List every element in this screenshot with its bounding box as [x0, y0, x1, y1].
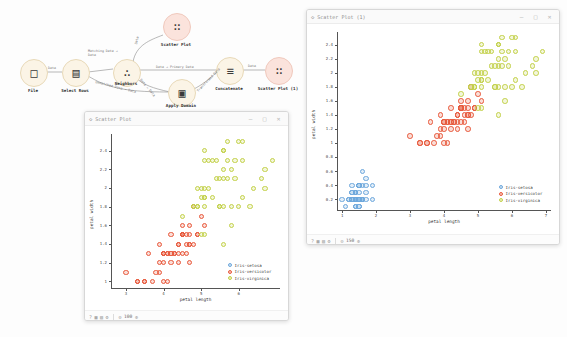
data-point[interactable] — [455, 126, 461, 132]
data-point[interactable] — [434, 133, 440, 139]
data-point[interactable] — [509, 84, 515, 90]
data-point[interactable] — [202, 204, 207, 209]
data-point[interactable] — [343, 204, 349, 210]
maximize-button[interactable]: □ — [259, 115, 270, 122]
data-point[interactable] — [479, 105, 485, 111]
data-point[interactable] — [349, 183, 355, 189]
data-point[interactable] — [445, 140, 451, 146]
window-titlebar[interactable]: ◇ Scatter Plot – □ ✕ — [85, 112, 288, 126]
data-point[interactable] — [187, 260, 192, 265]
data-point[interactable] — [221, 242, 226, 247]
data-point[interactable] — [462, 119, 468, 125]
help-icon[interactable]: ? — [89, 314, 92, 320]
data-point[interactable] — [168, 232, 173, 237]
data-point[interactable] — [506, 63, 512, 69]
data-point[interactable] — [187, 223, 192, 228]
data-point[interactable] — [270, 158, 275, 163]
data-point[interactable] — [479, 42, 485, 48]
data-point[interactable] — [142, 279, 147, 284]
data-point[interactable] — [533, 56, 539, 62]
data-point[interactable] — [240, 195, 245, 200]
data-point[interactable] — [225, 139, 230, 144]
chart-legend[interactable]: Iris-setosaIris-versicolorIris-virginica — [228, 262, 271, 282]
data-point[interactable] — [468, 112, 474, 118]
data-point[interactable] — [206, 158, 211, 163]
data-point[interactable] — [236, 204, 241, 209]
plot-area[interactable]: 0.20.40.60.811.21.41.61.822.22.41234567p… — [307, 24, 559, 234]
data-point[interactable] — [180, 223, 185, 228]
node-concatenate[interactable]: ≡ — [216, 57, 244, 85]
data-point[interactable] — [251, 186, 256, 191]
legend-item[interactable]: Iris-versicolor — [228, 269, 271, 276]
data-point[interactable] — [229, 223, 234, 228]
node-select-rows[interactable]: ▤ — [62, 59, 90, 87]
data-point[interactable] — [150, 279, 155, 284]
close-button[interactable]: ✕ — [544, 13, 555, 20]
data-point[interactable] — [448, 126, 454, 132]
settings-icon[interactable]: ⚙ — [328, 238, 331, 244]
zoom-out-icon[interactable]: ⊖ — [341, 238, 344, 244]
help-icon[interactable]: ? — [311, 238, 314, 244]
data-point[interactable] — [455, 112, 461, 118]
data-point[interactable] — [530, 63, 536, 69]
data-point[interactable] — [229, 167, 234, 172]
workflow-diagram[interactable]: □ File ▤ Select Rows ∴ Neighbors ∷ Scatt… — [0, 0, 310, 115]
data-point[interactable] — [502, 56, 508, 62]
data-point[interactable] — [417, 140, 423, 146]
window-statusbar[interactable]: ? ▦ ▤ ⚙ ⊖ 150 ⊕ — [307, 234, 559, 245]
data-point[interactable] — [157, 242, 162, 247]
data-point[interactable] — [479, 98, 485, 104]
scatter-plot-1-window[interactable]: ◇ Scatter Plot (1) – □ ✕ 0.20.40.60.811.… — [306, 9, 560, 245]
data-point[interactable] — [472, 70, 478, 76]
data-point[interactable] — [492, 84, 498, 90]
data-point[interactable] — [499, 35, 505, 41]
data-point[interactable] — [496, 112, 502, 118]
data-point[interactable] — [199, 214, 204, 219]
data-point[interactable] — [363, 176, 369, 182]
data-point[interactable] — [165, 251, 170, 256]
data-point[interactable] — [184, 242, 189, 247]
minimize-button[interactable]: – — [245, 115, 256, 122]
data-point[interactable] — [135, 279, 140, 284]
data-point[interactable] — [184, 251, 189, 256]
data-point[interactable] — [262, 167, 267, 172]
close-button[interactable]: ✕ — [273, 115, 284, 122]
data-point[interactable] — [502, 98, 508, 104]
data-point[interactable] — [448, 105, 454, 111]
data-point[interactable] — [482, 70, 488, 76]
data-point[interactable] — [123, 270, 128, 275]
data-point[interactable] — [519, 84, 525, 90]
data-point[interactable] — [356, 183, 362, 189]
data-point[interactable] — [465, 126, 471, 132]
report-icon[interactable]: ▤ — [322, 238, 325, 244]
data-point[interactable] — [153, 270, 158, 275]
data-point[interactable] — [210, 195, 215, 200]
save-image-icon[interactable]: ▦ — [317, 238, 320, 244]
data-point[interactable] — [180, 214, 185, 219]
data-point[interactable] — [360, 169, 366, 175]
data-point[interactable] — [445, 119, 451, 125]
data-point[interactable] — [168, 260, 173, 265]
data-point[interactable] — [370, 197, 376, 203]
maximize-button[interactable]: □ — [530, 13, 541, 20]
data-point[interactable] — [465, 105, 471, 111]
data-point[interactable] — [482, 49, 488, 55]
data-point[interactable] — [458, 91, 464, 97]
data-point[interactable] — [424, 140, 430, 146]
data-point[interactable] — [363, 190, 369, 196]
data-point[interactable] — [232, 176, 237, 181]
node-file[interactable]: □ — [20, 59, 48, 87]
data-point[interactable] — [468, 84, 474, 90]
data-point[interactable] — [407, 133, 413, 139]
plot-area[interactable]: 11.21.41.61.822.22.43456petal lengthpeta… — [85, 126, 288, 310]
data-point[interactable] — [502, 84, 508, 90]
data-point[interactable] — [247, 204, 252, 209]
data-point[interactable] — [187, 232, 192, 237]
data-point[interactable] — [199, 195, 204, 200]
data-point[interactable] — [458, 98, 464, 104]
data-point[interactable] — [202, 232, 207, 237]
data-point[interactable] — [232, 158, 237, 163]
data-point[interactable] — [176, 242, 181, 247]
data-point[interactable] — [206, 186, 211, 191]
data-point[interactable] — [462, 112, 468, 118]
